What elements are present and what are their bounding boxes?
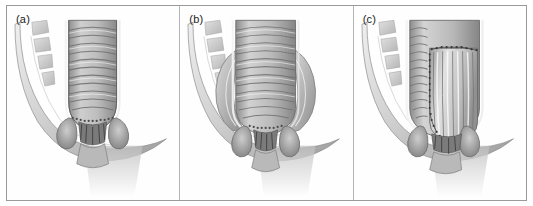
panel-a: (a) xyxy=(7,6,179,200)
panel-a-label: (a) xyxy=(16,13,30,25)
panel-b: (b) xyxy=(179,6,352,200)
figure-frame: (a) xyxy=(6,5,527,201)
sacral-vertebrae-c xyxy=(379,20,402,86)
anal-canal-b xyxy=(252,150,280,172)
panel-a-illustration xyxy=(7,6,179,200)
anorectal-diagram-a xyxy=(7,6,179,200)
panel-b-label: (b) xyxy=(189,13,203,25)
anal-canal-c xyxy=(429,152,461,174)
panel-c-illustration xyxy=(354,6,526,200)
panel-c-label: (c) xyxy=(363,13,376,25)
figure-container: (a) xyxy=(0,0,533,206)
panel-b-illustration xyxy=(180,6,352,200)
panel-c: (c) xyxy=(353,6,526,200)
anorectal-diagram-c xyxy=(354,6,526,200)
sacral-vertebrae-a xyxy=(32,20,55,86)
anorectal-diagram-b xyxy=(180,6,352,200)
